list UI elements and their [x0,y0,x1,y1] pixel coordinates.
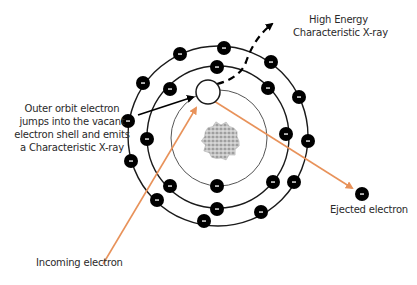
transition-label-line-3: electron shell and emits [6,128,138,141]
vacancy-circle [196,80,220,104]
electron-middle [140,132,154,146]
minus-icon [215,208,219,209]
electron-outer [136,76,150,90]
minus-icon [155,199,159,200]
electron-middle [210,60,224,74]
electron-middle [279,127,293,141]
electron-outer [264,55,278,69]
electron-middle [261,81,275,95]
transition-label-line-2: jumps into the vacant [6,115,138,128]
ejected-electron-label: Ejected electron [330,203,408,216]
minus-icon [168,88,172,89]
electron-transition-arrow [138,97,193,115]
nucleus [201,122,239,160]
electron-inner [210,179,224,193]
minus-icon [360,193,364,194]
minus-icon [284,133,288,134]
ejected-electron [355,187,369,201]
electron-middle [163,179,177,193]
transition-label: Outer orbit electron jumps into the vaca… [6,102,138,154]
minus-icon [141,82,145,83]
electron-outer [173,47,187,61]
incoming-electron-label: Incoming electron [36,256,123,269]
minus-icon [178,53,182,54]
electron-outer [124,154,138,168]
electron-outer [254,205,268,219]
minus-icon [266,87,270,88]
xray-label: High Energy Characteristic X-ray [293,13,413,39]
electron-outer [301,134,315,148]
minus-icon [215,66,219,67]
minus-icon [269,61,273,62]
electron-outer [217,41,231,55]
minus-icon [129,160,133,161]
nucleus-icon [201,122,239,160]
xray-label-line-2: Characteristic X-ray [293,26,413,39]
electron-middle [163,82,177,96]
minus-icon [222,47,226,48]
electron-outer [197,214,211,228]
electron-middle [210,202,224,216]
vacant-electron-shell [196,80,220,104]
electron-middle [266,175,280,189]
transition-label-line-1: Outer orbit electron [6,102,138,115]
electron-outer [292,90,306,104]
minus-icon [215,185,219,186]
electron-outer [287,175,301,189]
minus-icon [202,220,206,221]
xray-label-line-1: High Energy [293,13,413,26]
electron-outer [150,193,164,207]
minus-icon [259,211,263,212]
minus-icon [306,140,310,141]
transition-label-line-4: a Characteristic X-ray [6,141,138,154]
minus-icon [271,181,275,182]
minus-icon [292,181,296,182]
minus-icon [145,138,149,139]
minus-icon [297,96,301,97]
minus-icon [168,185,172,186]
